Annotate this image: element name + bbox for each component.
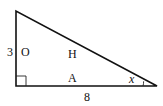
triangle-diagram: 3 O H A 8 x xyxy=(0,0,163,106)
side-left-length: 3 xyxy=(7,45,13,59)
angle-label: x xyxy=(128,72,135,86)
hypotenuse-name: H xyxy=(68,47,77,61)
side-bottom-name: A xyxy=(68,71,77,85)
right-angle-marker xyxy=(16,76,26,86)
triangle xyxy=(16,11,157,86)
side-left-name: O xyxy=(21,45,30,59)
angle-x-arc xyxy=(143,81,144,86)
side-bottom-length: 8 xyxy=(84,90,90,104)
